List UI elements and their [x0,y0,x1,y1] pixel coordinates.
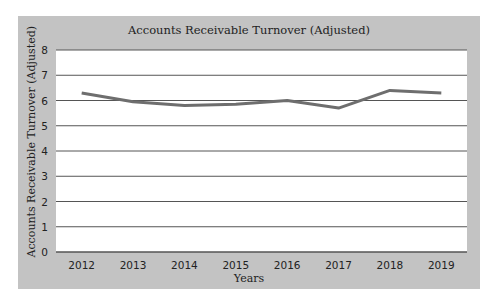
y-axis-label: Accounts Receivable Turnover (Adjusted) [25,48,38,258]
x-axis-label: Years [18,272,480,285]
x-tick-label: 2012 [68,259,95,271]
chart-panel: Accounts Receivable Turnover (Adjusted) … [18,16,480,289]
y-tick-label: 4 [41,145,48,157]
x-tick-label: 2013 [120,259,147,271]
y-tick-label: 5 [41,120,48,132]
x-tick-label: 2015 [222,259,249,271]
y-tick-label: 7 [41,69,48,81]
y-tick-label: 1 [41,221,48,233]
y-tick-label: 8 [41,44,48,56]
y-tick-label: 3 [41,170,48,182]
x-tick-label: 2018 [377,259,404,271]
x-tick-label: 2016 [274,259,301,271]
x-tick-label: 2017 [325,259,352,271]
y-tick-label: 0 [41,246,48,258]
y-tick-label: 6 [41,95,48,107]
x-tick-label: 2014 [171,259,198,271]
y-tick-label: 2 [41,196,48,208]
x-tick-label: 2019 [428,259,455,271]
plot-area: 0123456782012201320142015201620172018201… [18,16,480,289]
